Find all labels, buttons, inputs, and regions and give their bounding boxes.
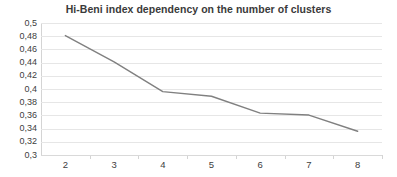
series-layer [0, 0, 397, 177]
chart-container: Hi-Beni index dependency on the number o… [0, 0, 397, 177]
series-line-hi-beni [65, 36, 357, 132]
